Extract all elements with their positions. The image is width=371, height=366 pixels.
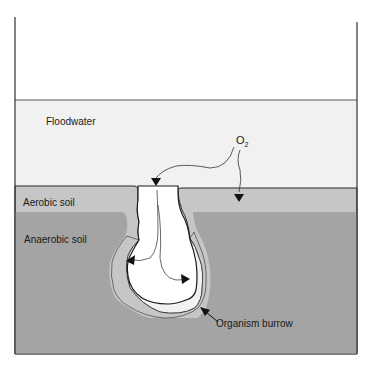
oxygen-label: O2 (236, 134, 248, 148)
burrow-oxygen-diagram (0, 0, 371, 366)
anaerobic-soil-label: Anaerobic soil (24, 234, 87, 245)
aerobic-soil-label: Aerobic soil (23, 197, 75, 208)
floodwater-label: Floodwater (46, 116, 95, 127)
oxygen-subscript: 2 (245, 141, 249, 148)
oxygen-symbol: O (236, 134, 245, 146)
organism-burrow-label: Organism burrow (216, 318, 293, 329)
